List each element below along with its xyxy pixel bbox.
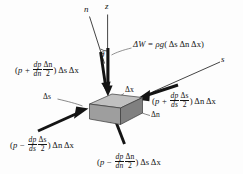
n-axis-label: n [84, 5, 89, 14]
leader-line-weight [112, 48, 132, 55]
bl-sign: − [20, 140, 25, 150]
pressure-force-left-s-face-label: (p−dpdsΔs2)ΔnΔx [10, 136, 74, 153]
weight-equation: ΔW=ρg(ΔsΔnΔx) [133, 40, 204, 49]
br-sign: − [107, 157, 112, 167]
pressure-force-bottom-n-face-label: (p−dpdnΔn2)ΔsΔx [97, 153, 161, 170]
weight-ds: Δs [169, 39, 178, 49]
fluid-element-free-body-diagram: n z s θ ΔW=ρg(ΔsΔnΔx) (p+dpdnΔn2)ΔsΔx (p… [0, 0, 243, 174]
tl-derivative: dpdn [33, 61, 42, 78]
bl-close-paren: ) [48, 140, 51, 150]
bl-frac-den: 2 [38, 145, 47, 153]
bl-area-b: Δx [64, 140, 74, 150]
br-derivative: dpdn [115, 153, 124, 170]
tl-close-paren: ) [54, 65, 57, 75]
tl-area-a: Δs [58, 65, 67, 75]
weight-dn: Δn [179, 39, 189, 49]
fluid-element-block [90, 94, 143, 125]
r-sign: + [162, 96, 167, 106]
tl-frac-den: 2 [43, 70, 53, 78]
r-ds: ds [170, 101, 179, 109]
weight-close-paren: ) [201, 39, 204, 49]
r-area-b: Δx [206, 96, 216, 106]
br-dn: dn [115, 162, 124, 170]
z-axis-label: z [105, 2, 109, 11]
r-half-delta: Δs2 [180, 92, 189, 109]
tl-sign: + [25, 65, 30, 75]
bl-area-a: Δn [52, 140, 62, 150]
r-frac-den: 2 [180, 101, 189, 109]
weight-rho-g: ρg [156, 39, 165, 49]
bl-derivative: dpds [28, 136, 37, 153]
pressure-force-arrow-left [38, 106, 89, 131]
br-half-delta: Δn2 [125, 153, 135, 170]
tl-area-b: Δx [69, 65, 79, 75]
br-close-paren: ) [136, 157, 139, 167]
pressure-force-top-n-face-label: (p+dpdnΔn2)ΔsΔx [15, 61, 79, 78]
s-axis [153, 62, 221, 92]
br-p: p [100, 157, 104, 167]
theta-angle-label: θ [101, 51, 105, 59]
pressure-force-right-s-face-label: (p+dpdsΔs2)ΔnΔx [152, 92, 216, 109]
leader-line-ds [58, 99, 83, 106]
bl-p: p [13, 140, 17, 150]
br-area-a: Δs [140, 157, 149, 167]
tl-dn: dn [33, 70, 42, 78]
bl-ds: ds [28, 145, 37, 153]
dimension-label-dx: Δx [125, 86, 134, 94]
dimension-label-dn: Δn [151, 111, 160, 119]
br-frac-den: 2 [125, 162, 135, 170]
r-p: p [155, 96, 159, 106]
weight-open-paren: ( [164, 39, 167, 49]
br-area-b: Δx [151, 157, 161, 167]
s-axis-label: s [221, 55, 225, 64]
r-close-paren: ) [190, 96, 193, 106]
r-derivative: dpds [170, 92, 179, 109]
dimension-label-ds: Δs [43, 93, 51, 101]
weight-dx: Δx [191, 39, 201, 49]
tl-p: p [18, 65, 22, 75]
bl-half-delta: Δs2 [38, 136, 47, 153]
r-area-a: Δn [194, 96, 204, 106]
weight-equals: = [148, 39, 153, 49]
tl-half-delta: Δn2 [43, 61, 53, 78]
weight-symbol: ΔW [133, 39, 145, 49]
